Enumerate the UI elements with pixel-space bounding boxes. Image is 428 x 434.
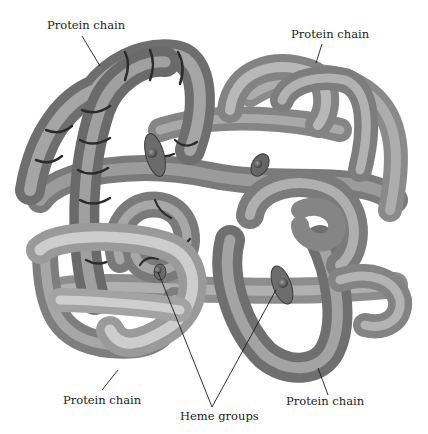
- label-protein-chain-bottom-right: Protein chain: [286, 394, 364, 408]
- hemoglobin-diagram: Protein chain Protein chain Protein chai…: [0, 0, 428, 434]
- label-protein-chain-top-right: Protein chain: [291, 27, 369, 41]
- leader-line-top-right: [316, 44, 322, 63]
- leader-line-top-left: [82, 36, 100, 66]
- label-protein-chain-bottom-left: Protein chain: [63, 393, 141, 407]
- protein-chain-bottom-right: [227, 183, 400, 368]
- protein-structure-illustration: [0, 0, 428, 434]
- label-protein-chain-top-left: Protein chain: [47, 18, 125, 32]
- leader-line-bottom-left: [102, 370, 118, 390]
- label-heme-groups: Heme groups: [180, 409, 259, 423]
